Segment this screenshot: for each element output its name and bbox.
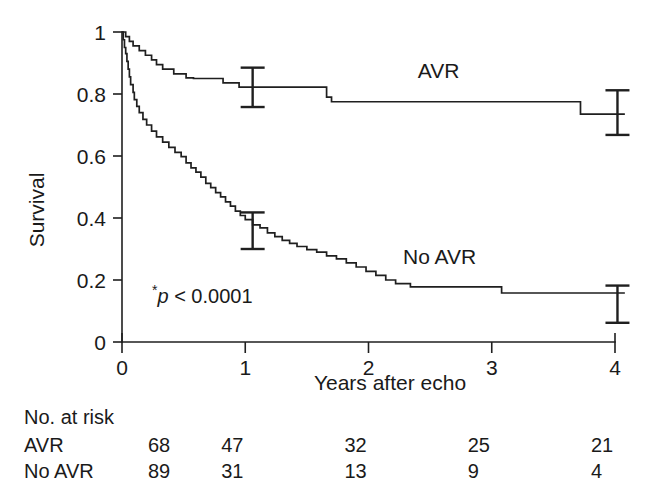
risk-table-header: No. at risk xyxy=(24,406,115,428)
survival-curve-no-avr xyxy=(122,32,625,293)
risk-cell: 89 xyxy=(148,460,170,482)
confidence-interval-bars xyxy=(241,68,630,323)
risk-cell: 31 xyxy=(221,460,243,482)
risk-cell: 4 xyxy=(591,460,602,482)
y-axis-tick-labels: 00.20.40.60.81 xyxy=(77,21,107,354)
series-label-avr: AVR xyxy=(418,59,460,82)
risk-cell: 32 xyxy=(345,434,367,456)
survival-curve-avr xyxy=(122,32,625,114)
risk-row-label: No AVR xyxy=(24,460,94,482)
x-tick-label: 4 xyxy=(609,356,621,379)
x-tick-label: 1 xyxy=(239,356,251,379)
y-tick-label: 0 xyxy=(94,331,106,354)
error-bar-no-avr xyxy=(241,212,265,249)
p-value-annotation: *p < 0.0001 xyxy=(152,282,253,307)
risk-cell: 13 xyxy=(345,460,367,482)
series-labels: AVRNo AVR xyxy=(403,59,476,268)
survival-plot: 00.20.40.60.81 01234 Survival Years afte… xyxy=(0,0,653,496)
x-tick-label: 3 xyxy=(486,356,498,379)
risk-cell: 68 xyxy=(148,434,170,456)
y-tick-label: 1 xyxy=(94,21,106,44)
risk-cell: 9 xyxy=(468,460,479,482)
no-at-risk-table: No. at risk AVR6847322521No AVR89311394 xyxy=(24,406,613,482)
x-tick-label: 0 xyxy=(116,356,128,379)
y-tick-label: 0.4 xyxy=(77,207,107,230)
x-axis-ticks xyxy=(122,333,615,353)
y-tick-label: 0.2 xyxy=(77,269,106,292)
risk-row-label: AVR xyxy=(24,434,64,456)
kaplan-meier-figure: 00.20.40.60.81 01234 Survival Years afte… xyxy=(0,0,653,496)
y-tick-label: 0.6 xyxy=(77,145,106,168)
x-axis-title: Years after echo xyxy=(314,371,466,394)
y-axis-ticks xyxy=(113,32,122,342)
risk-cell: 25 xyxy=(468,434,490,456)
y-axis-title: Survival xyxy=(25,173,48,248)
risk-cell: 21 xyxy=(591,434,613,456)
y-tick-label: 0.8 xyxy=(77,83,106,106)
series-label-no-avr: No AVR xyxy=(403,245,476,268)
survival-curves xyxy=(122,32,625,293)
error-bar-no-avr xyxy=(605,286,629,323)
risk-cell: 47 xyxy=(221,434,243,456)
error-bar-avr xyxy=(605,90,629,135)
